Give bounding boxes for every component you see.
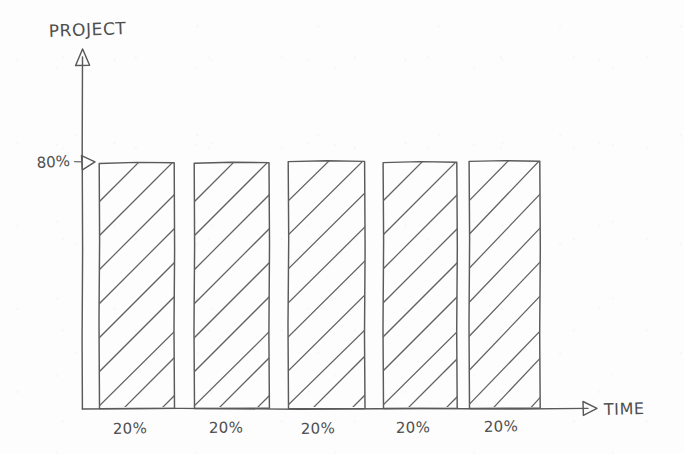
y-axis-line — [82, 57, 83, 409]
bar-2-hatching — [183, 158, 275, 424]
bar-2-label: 20% — [209, 418, 244, 437]
x-axis-label: TIME — [603, 399, 645, 419]
bar-5 — [458, 157, 546, 424]
bar-3-hatching — [277, 157, 370, 424]
bar-2 — [183, 158, 275, 424]
bar-5-label: 20% — [484, 417, 519, 436]
hand-drawn-bar-chart: PROJECT TIME 80% 20% 20% 20% 20% 20% — [0, 0, 684, 454]
bar-3 — [277, 157, 370, 424]
bar-3-outline — [288, 161, 365, 409]
y-level-marker-arrow-icon — [82, 156, 96, 170]
chart-canvas: PROJECT TIME 80% 20% 20% 20% 20% 20% — [0, 0, 684, 454]
bar-3-label: 20% — [301, 419, 336, 438]
bar-1-label: 20% — [113, 419, 148, 438]
bar-4-label: 20% — [396, 418, 431, 437]
axis-group — [75, 49, 598, 415]
bar-1 — [88, 158, 180, 424]
y-axis-label: PROJECT — [48, 18, 126, 41]
bar-4 — [372, 157, 463, 424]
bar-5-hatching — [458, 157, 546, 424]
bar-4-hatching — [372, 157, 463, 424]
y-tick-label-80: 80% — [36, 152, 70, 172]
bar-1-outline — [99, 162, 175, 408]
bar-1-hatching — [88, 158, 180, 424]
